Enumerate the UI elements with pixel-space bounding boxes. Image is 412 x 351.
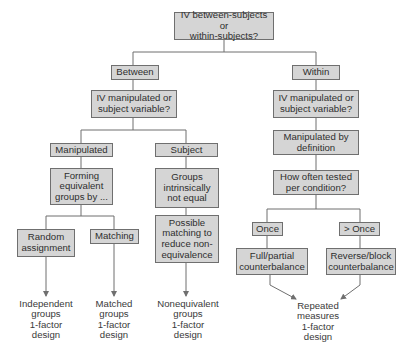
matched-groups-outcome: Matched groups 1-factor design	[84, 299, 144, 341]
random-assignment-box: Random assignment	[17, 229, 75, 257]
manipulated-box: Manipulated	[50, 143, 113, 157]
how-often-tested-box: How often tested per condition?	[273, 170, 359, 195]
root-question-box: IV between-subjects or within-subjects?	[174, 12, 274, 40]
full-partial-counterbalance-box: Full/partial counterbalance	[236, 248, 308, 275]
manipulated-by-definition-box: Manipulated by definition	[273, 130, 359, 155]
between-iv-question-box: IV manipulated or subject variable?	[91, 90, 177, 118]
forming-equivalent-groups-box: Forming equivalent groups by ...	[50, 168, 113, 205]
possible-matching-box: Possible matching to reduce non- equival…	[155, 215, 219, 263]
once-box: Once	[252, 222, 283, 236]
matching-box: Matching	[90, 229, 139, 244]
within-iv-question-box: IV manipulated or subject variable?	[273, 90, 359, 118]
between-box: Between	[111, 65, 159, 80]
repeated-measures-outcome: Repeated measures 1-factor design	[288, 301, 348, 343]
groups-not-equal-box: Groups intrinsically not equal	[155, 168, 219, 208]
reverse-block-counterbalance-box: Reverse/block counterbalance	[326, 248, 396, 275]
within-box: Within	[292, 65, 340, 80]
nonequivalent-groups-outcome: Nonequivalent groups 1-factor design	[150, 299, 226, 341]
independent-groups-outcome: Independent groups 1-factor design	[10, 299, 82, 341]
more-than-once-box: > Once	[339, 222, 380, 236]
research-design-flowchart: IV between-subjects or within-subjects? …	[0, 0, 412, 351]
subject-box: Subject	[155, 143, 218, 157]
